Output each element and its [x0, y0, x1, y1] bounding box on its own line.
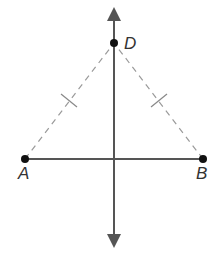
label-b: B [196, 165, 207, 182]
label-d: D [124, 35, 136, 52]
label-a: A [18, 165, 29, 182]
tick-mark-ad [61, 94, 77, 107]
tick-mark-bd [151, 94, 167, 107]
diagram-canvas: A B D [0, 0, 220, 255]
point-a [21, 155, 29, 163]
point-d [110, 39, 118, 47]
point-b [199, 155, 207, 163]
geometry-figure [0, 0, 220, 255]
